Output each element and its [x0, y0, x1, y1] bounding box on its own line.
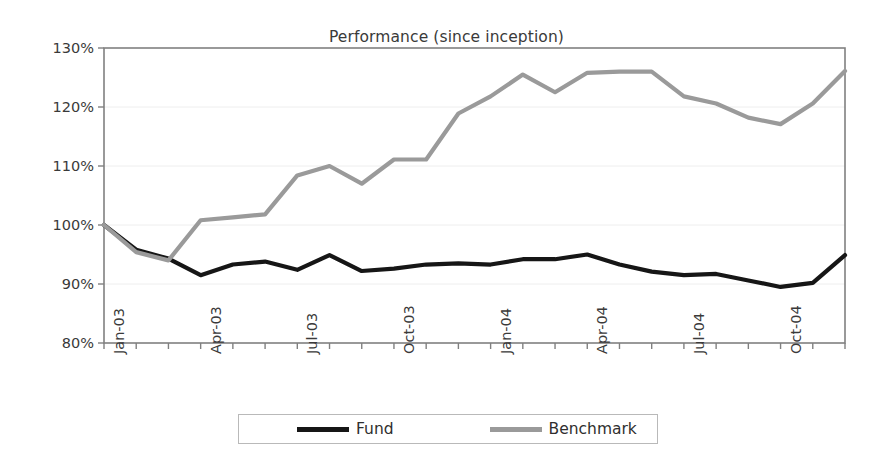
x-axis-tick-label: Jul-04: [691, 313, 707, 354]
axis-frame: [104, 48, 845, 343]
gridlines: [104, 107, 845, 284]
x-axis-tick-label: Jan-03: [111, 308, 127, 354]
legend-label-benchmark: Benchmark: [549, 420, 637, 438]
legend-label-fund: Fund: [356, 420, 394, 438]
y-axis-tick-label: 120%: [20, 99, 94, 115]
data-series: [104, 71, 845, 287]
legend-item-fund: Fund: [297, 420, 394, 438]
y-axis-tick-label: 80%: [20, 335, 94, 351]
y-axis-tick-label: 110%: [20, 158, 94, 174]
performance-chart: Performance (since inception) 80%90%100%…: [0, 0, 893, 463]
x-axis-tick-label: Oct-04: [788, 305, 804, 354]
x-axis-tick-label: Jul-03: [304, 313, 320, 354]
chart-legend: Fund Benchmark: [238, 414, 658, 444]
y-axis-tick-label: 130%: [20, 40, 94, 56]
x-axis-tick-label: Apr-04: [594, 306, 610, 354]
y-axis-tick-label: 100%: [20, 217, 94, 233]
x-axis-tick-label: Oct-03: [401, 305, 417, 354]
plot-area: [0, 0, 893, 463]
legend-item-benchmark: Benchmark: [490, 420, 637, 438]
y-axis-tick-label: 90%: [20, 276, 94, 292]
y-axis-ticks: [98, 48, 104, 343]
x-axis-tick-label: Jan-04: [498, 308, 514, 354]
legend-swatch-fund: [297, 427, 349, 432]
legend-swatch-benchmark: [490, 427, 542, 432]
x-axis-tick-label: Apr-03: [208, 306, 224, 354]
